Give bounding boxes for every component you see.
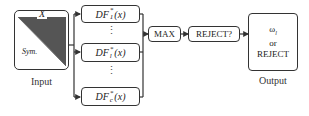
classifier-1-prefix: DF xyxy=(96,9,109,20)
reject-decision-block: REJECT? xyxy=(188,26,240,42)
matrix-sym-label: Sym. xyxy=(22,47,37,56)
input-caption: Input xyxy=(14,76,69,87)
ellipsis-1: ⋮ xyxy=(106,24,117,37)
max-block: MAX xyxy=(148,26,181,42)
ellipsis-2: ⋮ xyxy=(106,64,117,77)
output-caption: Output xyxy=(248,75,298,86)
classifier-box-c: DF*c(x) xyxy=(81,87,140,106)
upper-triangle-shading xyxy=(15,11,69,70)
output-or: or xyxy=(269,38,277,49)
matrix-x-label: X xyxy=(37,10,47,19)
output-reject: REJECT xyxy=(257,49,289,60)
classifier-box-1: DF*1(x) xyxy=(81,5,140,23)
output-box: ωl or REJECT xyxy=(248,13,298,71)
input-matrix: X Sym. xyxy=(14,10,69,70)
output-omega: ωl xyxy=(269,24,277,39)
classifier-box-l: DF*l(x) xyxy=(81,43,140,62)
